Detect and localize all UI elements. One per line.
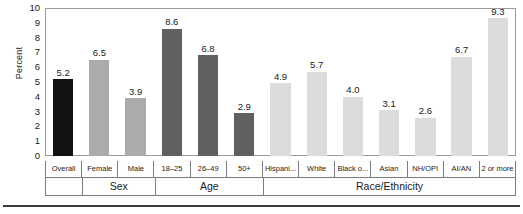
y-tick-label: 8 xyxy=(18,33,40,43)
category-label-cell: Asian xyxy=(371,161,407,177)
bar-value-label: 5.7 xyxy=(299,60,335,70)
y-tick-label: 4 xyxy=(18,92,40,102)
bar-slot: 9.3 xyxy=(480,8,516,156)
bar-value-label: 2.9 xyxy=(226,102,262,112)
bar xyxy=(270,83,290,156)
group-label-cell: Race/Ethnicity xyxy=(264,178,515,195)
category-label-cell: Male xyxy=(118,161,154,177)
bar-slot: 5.2 xyxy=(45,8,81,156)
y-tick-label: 9 xyxy=(18,18,40,28)
bar xyxy=(53,79,73,156)
category-label-cell: 26–49 xyxy=(191,161,227,177)
category-label-cell: Overall xyxy=(46,161,82,177)
bar-value-label: 6.7 xyxy=(444,45,480,55)
bar xyxy=(488,18,508,156)
bar-value-label: 3.9 xyxy=(117,87,153,97)
category-label-cell: 2 or more xyxy=(480,161,515,177)
y-tick-label: 10 xyxy=(18,3,40,13)
bar-slot: 8.6 xyxy=(154,8,190,156)
category-label-row: OverallFemaleMale18–2526–4950+Hispani...… xyxy=(45,161,516,178)
bars-layer: 5.26.53.98.66.82.94.95.74.03.12.66.79.3 xyxy=(45,8,516,156)
category-label-cell: 50+ xyxy=(227,161,263,177)
bar-value-label: 8.6 xyxy=(154,17,190,27)
category-label-cell: NH/OPI xyxy=(408,161,444,177)
bar xyxy=(415,118,435,156)
group-label-row: SexAgeRace/Ethnicity xyxy=(45,178,516,196)
y-tick-label: 3 xyxy=(18,107,40,117)
category-label-cell: 18–25 xyxy=(154,161,190,177)
bar-slot: 3.9 xyxy=(117,8,153,156)
bar-slot: 4.0 xyxy=(335,8,371,156)
y-tick-label: 7 xyxy=(18,48,40,58)
bar xyxy=(198,55,218,156)
group-label-cell: Sex xyxy=(83,178,156,195)
bar xyxy=(451,57,471,156)
bar-slot: 6.7 xyxy=(444,8,480,156)
bar xyxy=(343,97,363,156)
bar-value-label: 6.5 xyxy=(81,48,117,58)
bar-value-label: 3.1 xyxy=(371,99,407,109)
y-axis-tick-labels: 109876543210 xyxy=(18,8,40,156)
bar xyxy=(234,113,254,156)
bar-value-label: 4.0 xyxy=(335,85,371,95)
bar-slot: 2.6 xyxy=(407,8,443,156)
bar-value-label: 5.2 xyxy=(45,68,81,78)
category-label-cell: Hispani... xyxy=(263,161,299,177)
y-tick-label: 2 xyxy=(18,122,40,132)
bar-value-label: 6.8 xyxy=(190,44,226,54)
y-tick-label: 6 xyxy=(18,62,40,72)
bar-value-label: 2.6 xyxy=(407,106,443,116)
category-label-cell: AI/AN xyxy=(444,161,480,177)
bar-slot: 4.9 xyxy=(262,8,298,156)
y-tick-label: 0 xyxy=(18,151,40,161)
bar-value-label: 9.3 xyxy=(480,7,516,17)
bar-slot: 6.8 xyxy=(190,8,226,156)
bar xyxy=(379,110,399,156)
category-label-cell: Female xyxy=(82,161,118,177)
bottom-rule xyxy=(3,205,520,207)
category-label-cell: White xyxy=(299,161,335,177)
bar-value-label: 4.9 xyxy=(262,72,298,82)
bar xyxy=(162,29,182,156)
y-tick-label: 1 xyxy=(18,136,40,146)
bar xyxy=(307,72,327,156)
bar-slot: 5.7 xyxy=(299,8,335,156)
bar-slot: 6.5 xyxy=(81,8,117,156)
bar-slot: 2.9 xyxy=(226,8,262,156)
bar xyxy=(89,60,109,156)
bar xyxy=(125,98,145,156)
category-label-cell: Black o... xyxy=(335,161,371,177)
group-label-cell: Age xyxy=(156,178,265,195)
group-label-cell xyxy=(46,178,83,195)
bar-slot: 3.1 xyxy=(371,8,407,156)
y-tick-label: 5 xyxy=(18,77,40,87)
bar-chart-figure: Percent 109876543210 5.26.53.98.66.82.94… xyxy=(0,0,523,214)
